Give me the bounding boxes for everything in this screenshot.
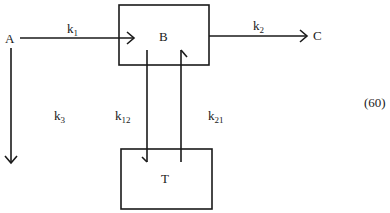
rate-label-k2: k2 [253, 19, 264, 35]
rate-label-k12: k12 [115, 109, 131, 125]
arrow-t-to-b [181, 50, 187, 162]
arrow-a-down [5, 48, 17, 163]
node-label-c: C [313, 29, 322, 42]
compartment-diagram [0, 0, 390, 213]
arrow-b-to-t [142, 50, 147, 162]
node-label-a: A [5, 32, 14, 45]
rate-label-k3: k3 [54, 109, 65, 125]
node-label-t: T [161, 172, 169, 185]
rate-label-k21: k21 [208, 109, 224, 125]
equation-number: (60) [364, 96, 386, 109]
node-label-b: B [159, 30, 168, 43]
rate-label-k1: k1 [67, 22, 78, 38]
